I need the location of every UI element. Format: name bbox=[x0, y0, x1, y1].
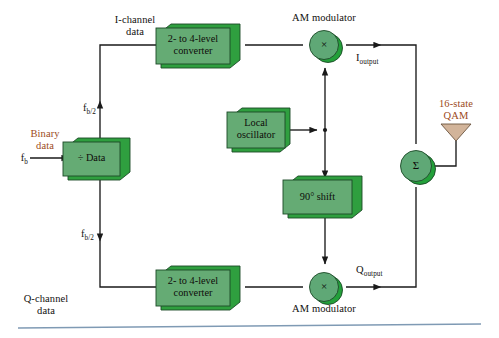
q-output-label: Qoutput bbox=[356, 264, 404, 276]
qam-label-line2: QAM bbox=[420, 110, 492, 122]
i-modulator-face bbox=[310, 31, 339, 60]
operator-q-am-modulator[interactable] bbox=[310, 273, 343, 305]
block-q-converter[interactable] bbox=[156, 266, 240, 310]
block-phase-shift[interactable] bbox=[283, 176, 362, 218]
qam-label-line1: 16-state bbox=[420, 98, 492, 110]
phase-shift-face bbox=[283, 180, 352, 214]
wire-i-to-converter bbox=[100, 45, 157, 101]
i-output-label: Ioutput bbox=[356, 52, 400, 64]
antenna-triangle bbox=[441, 124, 471, 141]
local-oscillator-face bbox=[227, 112, 285, 148]
i-channel-label-line1: I-channel bbox=[95, 14, 175, 26]
q-channel-label-line1: Q-channel bbox=[6, 293, 86, 305]
wire-q-to-converter bbox=[100, 241, 157, 287]
fb-half-top-label: fb/2 bbox=[66, 102, 96, 114]
lo-junction-dot bbox=[323, 128, 327, 132]
am-modulator-top-label: AM modulator bbox=[274, 12, 374, 24]
diagram-canvas bbox=[0, 0, 499, 338]
q-modulator-face bbox=[310, 273, 339, 302]
binary-data-label-line2: data bbox=[14, 140, 76, 152]
operator-linear-summer[interactable] bbox=[401, 151, 436, 185]
i-channel-label-line2: data bbox=[95, 26, 175, 38]
summer-face bbox=[401, 151, 432, 182]
binary-data-label-line1: Binary bbox=[14, 128, 76, 140]
block-local-oscillator[interactable] bbox=[227, 108, 290, 152]
operator-i-am-modulator[interactable] bbox=[310, 31, 343, 63]
am-modulator-bottom-label: AM modulator bbox=[274, 303, 374, 315]
fb-input-label: fb bbox=[8, 152, 28, 164]
footer-rule bbox=[18, 324, 481, 328]
q-channel-label-line2: data bbox=[6, 305, 86, 317]
fb-half-bottom-label: fb/2 bbox=[56, 228, 94, 240]
qam-transmitter-diagram: ÷ Data 2- to 4-level converter 2- to 4-l… bbox=[0, 0, 499, 338]
q-converter-face bbox=[156, 270, 230, 306]
antenna-icon bbox=[441, 124, 471, 141]
